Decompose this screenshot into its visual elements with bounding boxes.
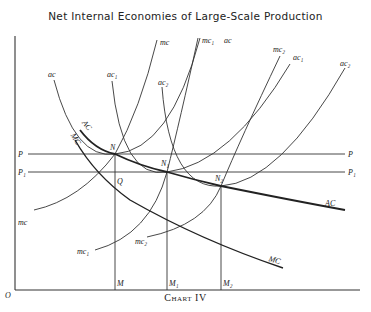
label-ac1-left: ac₁ [107, 70, 118, 79]
label-ac2-left: ac₂ [158, 78, 169, 87]
label-mc2-top: mc₂ [273, 45, 285, 54]
label-mc1-bottom: mc₁ [77, 247, 89, 256]
label-m1: M₁ [168, 279, 179, 288]
point-n: N [109, 143, 116, 152]
label-mc1-top: mc₁ [202, 36, 214, 45]
label-m: M [116, 279, 125, 288]
ac2-curve [162, 68, 345, 186]
label-m2: M₂ [222, 279, 233, 288]
chart-caption: Chart IV [0, 292, 371, 303]
label-ac-left: ac [48, 70, 56, 79]
label-mc2-bottom: mc₂ [135, 237, 147, 246]
label-ac-top: ac [224, 36, 232, 45]
label-ac2-top: ac₂ [340, 59, 351, 68]
label-ac1-top: ac₁ [293, 53, 304, 62]
label-ac-right: AC [324, 199, 336, 208]
label-mc-left: mc [18, 218, 28, 227]
label-long-run-ac: AC [80, 118, 95, 133]
cost-curves-diagram: mc ac ac₁ ac₂ mc₁ ac mc₂ ac₁ ac₂ AC MC A… [0, 0, 371, 312]
point-n2: N₂ [214, 174, 223, 183]
label-mc-top: mc [160, 38, 170, 47]
label-p1-left: P₁ [17, 168, 26, 177]
label-p1-right: P₁ [347, 168, 356, 177]
label-long-run-mc: MC [68, 131, 83, 147]
point-n1: N₁ [160, 159, 169, 168]
label-p-left: P [17, 150, 23, 159]
label-p-right: P [347, 150, 353, 159]
label-mc-right: MC [267, 254, 283, 266]
point-q: Q [117, 177, 123, 186]
ac1-curve [112, 64, 290, 173]
mc-curve [34, 40, 157, 210]
long-run-ac-curve [80, 130, 345, 210]
